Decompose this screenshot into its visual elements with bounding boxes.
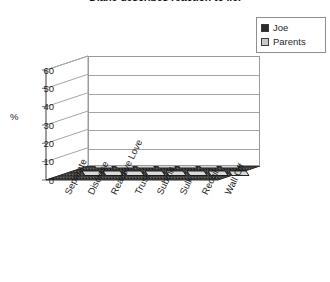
legend-item-joe[interactable]: Joe xyxy=(261,21,322,35)
x-label-wall-off: Wall Off xyxy=(223,162,247,196)
legend-swatch-parents-icon xyxy=(261,38,269,46)
chart-legend: Joe Parents xyxy=(256,17,326,53)
legend-item-parents[interactable]: Parents xyxy=(261,35,322,49)
x-label-sulk: Sulk xyxy=(178,175,195,196)
legend-label-parents: Parents xyxy=(273,37,306,47)
x-label-recoil: Recoil xyxy=(200,168,221,196)
x-label-trust: Trust xyxy=(133,173,151,197)
chart-container: Diane describes reaction to lie. xyxy=(0,0,330,282)
legend-label-joe: Joe xyxy=(273,23,288,33)
legend-swatch-joe-icon xyxy=(261,24,269,32)
x-label-submit: Submit xyxy=(155,165,177,196)
